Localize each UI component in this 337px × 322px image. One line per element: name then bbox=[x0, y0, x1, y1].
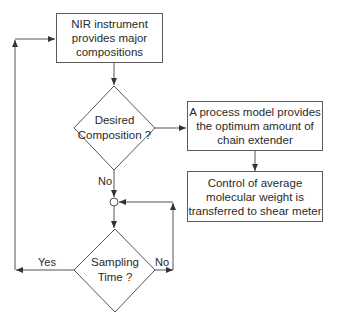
process-model-box: A process model provides the optimum amo… bbox=[187, 101, 323, 151]
sampling-yes-label: Yes bbox=[38, 256, 56, 268]
process-model-label: A process model provides the optimum amo… bbox=[189, 105, 321, 147]
control-label: Control of average molecular weight is t… bbox=[189, 176, 322, 218]
desired-no-label: No bbox=[98, 175, 112, 187]
flowchart-connectors bbox=[0, 0, 337, 322]
nir-instrument-label: NIR instrument provides major compositio… bbox=[71, 17, 148, 59]
sampling-time-label: Sampling Time ? bbox=[74, 255, 156, 285]
nir-instrument-box: NIR instrument provides major compositio… bbox=[56, 13, 163, 63]
junction-circle bbox=[110, 198, 118, 206]
sampling-no-label: No bbox=[155, 256, 169, 268]
control-box: Control of average molecular weight is t… bbox=[187, 171, 323, 222]
desired-composition-label: Desired Composition ? bbox=[74, 113, 155, 143]
